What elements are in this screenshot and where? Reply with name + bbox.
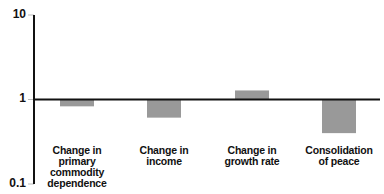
bar bbox=[60, 100, 94, 107]
y-tick-10: 10 bbox=[2, 7, 26, 21]
bar bbox=[235, 90, 269, 99]
x-category-label: Change inprimarycommoditydependence bbox=[37, 145, 117, 189]
bar-chart: 10 1 0.1 Change inprimarycommoditydepend… bbox=[0, 0, 384, 194]
y-tick-1: 1 bbox=[2, 91, 26, 105]
x-category-label: Change ingrowth rate bbox=[212, 145, 292, 167]
y-tick-0-1: 0.1 bbox=[2, 176, 26, 190]
x-category-label: Consolidationof peace bbox=[299, 145, 379, 167]
bar bbox=[147, 100, 181, 118]
x-category-label: Change inincome bbox=[124, 145, 204, 167]
bar bbox=[322, 100, 356, 134]
